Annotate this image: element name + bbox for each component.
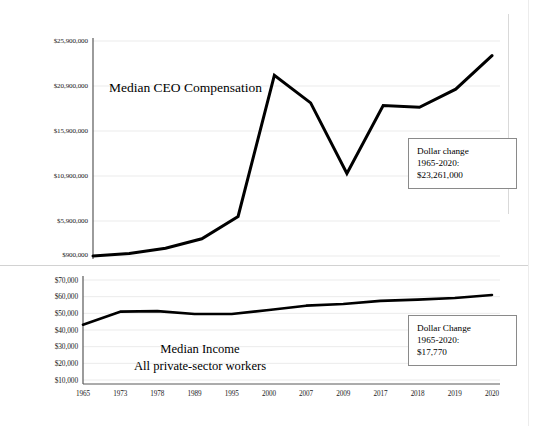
callout-line-2: 1965-2020: [417, 334, 508, 346]
ytick-label: $900,000 [0, 251, 88, 259]
income-series-title: Median Income [100, 342, 300, 357]
ytick-label: $70,000 [0, 276, 78, 285]
xtick-label: 1995 [214, 390, 250, 398]
ytick-label: $15,900,000 [0, 127, 88, 135]
ceo-series-title: Median CEO Compensation [109, 80, 262, 96]
income-series-subtitle: All private-sector workers [75, 359, 325, 374]
ytick-label: $20,000 [0, 359, 78, 368]
callout-line-2: 1965-2020: [417, 157, 508, 169]
xtick-label: 2020 [474, 390, 510, 398]
ceo-compensation-chart: $25,900,000 $20,900,000 $15,900,000 $10,… [0, 0, 538, 265]
ytick-label: $10,000 [0, 376, 78, 385]
ytick-label: $20,900,000 [0, 82, 88, 90]
xtick-label: 2017 [362, 390, 398, 398]
callout-line-3: $17,770 [417, 346, 508, 358]
median-income-chart: $70,000 $60,000 $50,000 $40,000 $30,000 … [0, 266, 538, 426]
ytick-label: $25,900,000 [0, 37, 88, 45]
ytick-label: $60,000 [0, 292, 78, 301]
xtick-label: 2009 [325, 390, 361, 398]
ytick-label: $40,000 [0, 326, 78, 335]
income-dollar-change-callout: Dollar Change 1965-2020: $17,770 [408, 315, 517, 366]
ytick-label: $10,900,000 [0, 172, 88, 180]
callout-line-3: $23,261,000 [417, 169, 508, 181]
callout-line-1: Dollar change [417, 145, 508, 157]
xtick-label: 2007 [288, 390, 324, 398]
xtick-label: 2000 [251, 390, 287, 398]
callout-line-1: Dollar Change [417, 322, 508, 334]
ytick-label: $50,000 [0, 309, 78, 318]
xtick-label: 1965 [65, 390, 101, 398]
ceo-dollar-change-callout: Dollar change 1965-2020: $23,261,000 [408, 138, 517, 189]
xtick-label: 2019 [437, 390, 473, 398]
xtick-label: 2018 [400, 390, 436, 398]
ytick-label: $30,000 [0, 342, 78, 351]
ytick-label: $5,900,000 [0, 217, 88, 225]
xtick-label: 1973 [102, 390, 138, 398]
figure-canvas: $25,900,000 $20,900,000 $15,900,000 $10,… [0, 0, 538, 426]
xtick-label: 1989 [177, 390, 213, 398]
xtick-label: 1978 [139, 390, 175, 398]
